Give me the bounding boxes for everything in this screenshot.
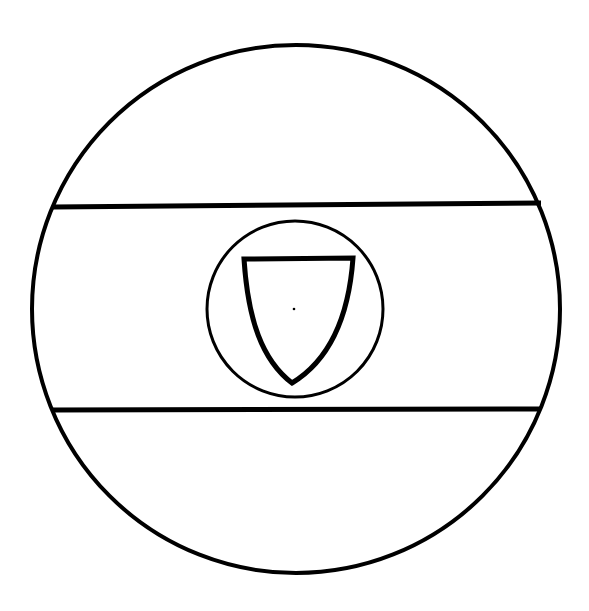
roundel-drawing — [0, 0, 589, 611]
center-dot — [293, 308, 296, 311]
background — [0, 0, 589, 611]
band-bottom-line — [52, 409, 541, 410]
roundel-figure: Heraldic roundel with horizontal fess ba… — [0, 0, 589, 611]
